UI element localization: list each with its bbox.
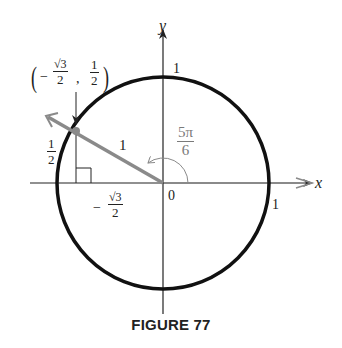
angle-label: 5π 6 <box>177 125 194 158</box>
base-label-minus: − <box>93 201 101 215</box>
terminal-side-ray <box>48 117 163 183</box>
x-tick-label: 1 <box>272 198 279 212</box>
point-label-comma: , <box>76 72 80 86</box>
point-label-open-paren: ( <box>31 62 37 92</box>
point-label-close-paren: ) <box>103 62 109 92</box>
unit-circle-diagram <box>0 0 342 348</box>
y-tick-label: 1 <box>173 62 180 76</box>
point-y-fraction: 1 2 <box>90 58 99 87</box>
point-marker <box>72 127 80 135</box>
figure-caption: FIGURE 77 <box>0 316 342 333</box>
base-label-fraction: √3 2 <box>108 191 123 219</box>
point-label-minus: − <box>40 70 48 84</box>
radius-label: 1 <box>119 138 127 153</box>
point-x-fraction: √3 2 <box>53 58 68 86</box>
right-angle-marker <box>76 168 91 183</box>
x-axis-label: x <box>315 175 322 191</box>
unit-circle-figure: ( − √3 2 , 1 2 ) y 1 1 5π 6 1 2 − √3 2 0… <box>0 0 342 348</box>
height-label: 1 2 <box>47 137 56 166</box>
origin-label: 0 <box>168 189 175 203</box>
y-axis-label: y <box>159 18 166 34</box>
